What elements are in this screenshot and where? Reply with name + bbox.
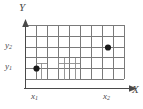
y-tick-label-y2: y2 (5, 41, 12, 50)
y-tick-y1-subscript: 1 (9, 65, 12, 71)
grid-lattice-figure: Y X y2 y1 x1 x2 (0, 0, 143, 109)
x-axis-label: X (132, 84, 139, 95)
y-axis-label: Y (19, 2, 25, 13)
point-x2-y2 (105, 44, 111, 50)
x-tick-label-x1: x1 (31, 92, 38, 101)
y-axis-arrowhead (22, 19, 29, 27)
point-x1-y1 (33, 65, 39, 71)
x-tick-x2-subscript: 2 (107, 95, 110, 101)
y-tick-label-y1: y1 (5, 62, 12, 71)
grid-vertical-lines (26, 25, 125, 79)
grid-horizontal-lines (25, 26, 124, 80)
axis-lines (24, 23, 132, 89)
x-tick-x1-subscript: 1 (35, 95, 38, 101)
x-tick-label-x2: x2 (103, 92, 110, 101)
figure-canvas (0, 0, 143, 109)
y-tick-y2-subscript: 2 (9, 44, 12, 50)
